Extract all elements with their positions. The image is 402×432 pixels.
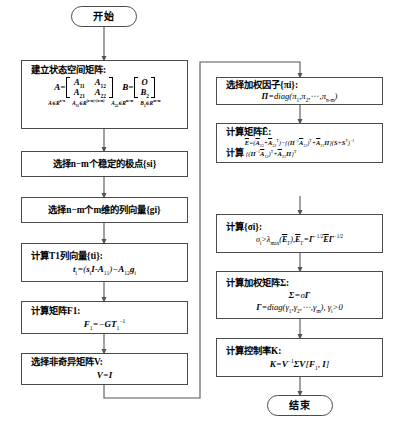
compute-f1-header: 计算矩阵F1: [25,306,80,317]
choose-vectors-header: 选择n−m个m维的列向量{gi} [48,205,161,216]
start-label: 开始 [93,11,115,23]
compute-e-formula-2: 计算 {(Π−1A12)T+A21Π}T [220,148,296,158]
compute-t1-formula: ti=(siI-A11)−A12gi [73,264,136,274]
choose-poles-header: 选择n−m个稳定的极点{si} [53,159,157,170]
node-compute-sigma[interactable]: 计算{σi}: σi>λmax(EΓ),EΓ=Γ−1/2EΓ−1/2 [216,214,383,253]
compute-f1-formula: F1=−GT1−1 [84,319,126,329]
matrix-B: B= O B2 [122,77,155,99]
node-compute-weight-matrix[interactable]: 计算加权矩阵Σ: Σ=σΓ Γ=diag(γ1,γ2,⋯,γm), γi>0 [216,271,383,319]
compute-e-formula-1: E=(A22+A22T)−{(Π−1A12)T+A21Π}(S+ST)−1 [245,139,354,146]
start-terminal[interactable]: 开始 [71,6,137,27]
choose-v-header: 选择非奇异矩阵V: [25,357,103,368]
node-compute-f1[interactable]: 计算矩阵F1: F1=−GT1−1 [21,301,188,334]
compute-t1-header: 计算T1列向量{ti}: [25,251,103,262]
compute-weight-matrix-formula-2: Γ=diag(γ1,γ2,⋯,γm), γi>0 [256,303,342,313]
node-weight-factors[interactable]: 选择加权因子{πi}: Π=diag(π1,π2,⋯,πn-m) [216,77,383,105]
matrix-A: A= A11A12 A21A22 [54,77,113,99]
compute-weight-matrix-formula-1: Σ=σΓ [289,290,311,300]
compute-k-formula: K=V−1ΣV[F1, I] [270,359,329,369]
node-state-space-matrix[interactable]: 建立状态空间矩阵: A= A11A12 A21A22 B= O B2 [21,60,188,129]
compute-e-formula-2-prefix: 计算 [226,148,244,158]
compute-weight-matrix-header: 计算加权矩阵Σ: [220,278,289,289]
compute-e-header: 计算矩阵Ē: [220,127,271,138]
state-space-header: 建立状态空间矩阵: [25,65,106,76]
node-compute-k[interactable]: 计算控制率K: K=V−1ΣV[F1, I] [216,338,383,377]
compute-sigma-header: 计算{σi}: [220,222,262,233]
weight-factors-formula: Π=diag(π1,π2,⋯,πn-m) [262,92,338,102]
state-space-dimensions: A∈Rn×nA11∈R(n-m)×(n-m)A22∈Rm×mB2∈Rm×m [48,100,160,106]
node-choose-v[interactable]: 选择非奇异矩阵V: V=I [21,353,188,385]
compute-sigma-formula: σi>λmax(EΓ),EΓ=Γ−1/2EΓ−1/2 [256,235,343,244]
end-terminal[interactable]: 结束 [267,395,333,416]
node-compute-t1[interactable]: 计算T1列向量{ti}: ti=(siI-A11)−A12gi [21,243,188,282]
node-choose-column-vectors[interactable]: 选择n−m个m维的列向量{gi} [21,197,188,223]
node-compute-e[interactable]: 计算矩阵Ē: E=(A22+A22T)−{(Π−1A12)T+A21Π}(S+S… [216,123,383,163]
compute-k-header: 计算控制率K: [220,346,281,357]
end-label: 结束 [289,400,311,412]
choose-v-formula: V=I [97,370,113,380]
flowchart-canvas: 开始 建立状态空间矩阵: A= A11A12 A21A22 B= O B2 [0,0,402,432]
state-space-matrices: A= A11A12 A21A22 B= O B2 [25,77,184,99]
node-choose-poles[interactable]: 选择n−m个稳定的极点{si} [21,151,188,177]
weight-factors-header: 选择加权因子{πi}: [220,80,298,91]
